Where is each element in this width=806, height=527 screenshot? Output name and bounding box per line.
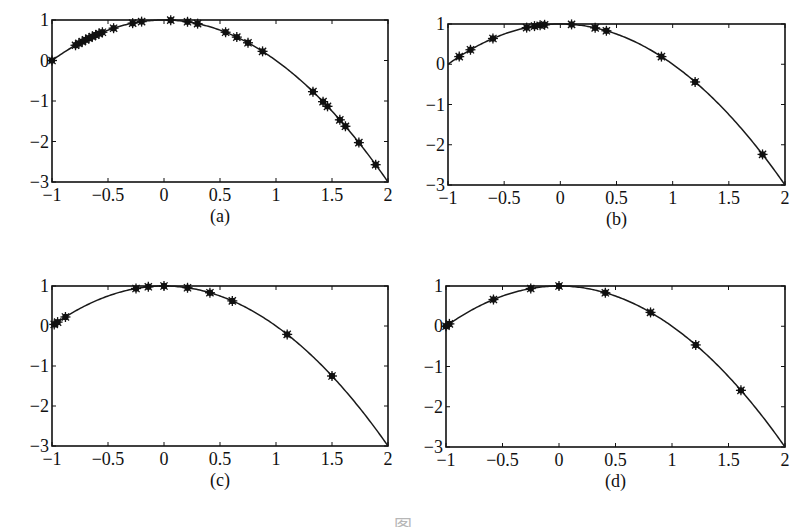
data-point-marker xyxy=(323,101,333,111)
y-tick-label: −3 xyxy=(30,436,49,456)
data-point-marker xyxy=(567,19,577,29)
x-tick-label: 2 xyxy=(781,450,790,470)
data-point-marker xyxy=(221,27,231,37)
x-tick-label: 1.5 xyxy=(321,185,344,205)
x-tick-label: 1.5 xyxy=(321,449,344,469)
data-point-marker xyxy=(60,312,70,322)
figure-canvas: −1−0.500.511.5210−1−2−3(a)−1−0.500.511.5… xyxy=(0,0,806,527)
data-point-marker xyxy=(340,121,350,131)
y-tick-label: −1 xyxy=(30,91,49,111)
data-point-marker xyxy=(690,77,700,87)
y-tick-label: −2 xyxy=(30,132,49,152)
data-point-marker xyxy=(646,307,656,317)
x-tick-label: 2 xyxy=(384,185,393,205)
data-point-marker xyxy=(109,23,119,33)
data-point-marker xyxy=(522,23,532,33)
panel-label: (c) xyxy=(210,470,230,491)
data-point-marker xyxy=(327,371,337,381)
y-tick-label: −2 xyxy=(424,397,443,417)
data-point-marker xyxy=(656,52,666,62)
data-point-marker xyxy=(166,15,176,25)
data-point-marker xyxy=(454,52,464,62)
data-point-marker xyxy=(227,296,237,306)
data-point-marker xyxy=(137,17,147,27)
y-tick-label: −3 xyxy=(424,437,443,457)
y-tick-label: 1 xyxy=(434,276,443,296)
data-point-marker xyxy=(47,56,57,66)
x-tick-label: 0 xyxy=(556,188,565,208)
data-point-marker xyxy=(97,27,107,37)
data-point-marker xyxy=(554,281,564,291)
x-tick-label: −0.5 xyxy=(486,450,519,470)
y-tick-label: 1 xyxy=(40,276,49,296)
x-tick-label: 1 xyxy=(272,449,281,469)
x-tick-label: 1 xyxy=(668,188,677,208)
data-point-marker xyxy=(128,18,138,28)
y-tick-label: −1 xyxy=(424,357,443,377)
data-point-marker xyxy=(590,23,600,33)
subplot-d: −1−0.500.511.5210−1−2−3(d) xyxy=(424,276,790,492)
data-point-marker xyxy=(371,160,381,170)
data-point-marker xyxy=(232,32,242,42)
x-tick-label: 0 xyxy=(555,450,564,470)
panel-label: (b) xyxy=(606,209,627,230)
data-point-marker xyxy=(526,284,536,294)
y-tick-label: −1 xyxy=(30,356,49,376)
x-tick-label: 1.5 xyxy=(717,450,740,470)
data-point-marker xyxy=(465,45,475,55)
subplot-a: −1−0.500.511.5210−1−2−3(a) xyxy=(30,10,393,227)
x-tick-label: 2 xyxy=(384,449,393,469)
y-tick-label: 0 xyxy=(436,54,445,74)
curve-line xyxy=(448,24,785,185)
y-tick-label: −3 xyxy=(30,172,49,192)
data-point-marker xyxy=(193,19,203,29)
panel-label: (d) xyxy=(605,471,626,492)
x-tick-label: 1.5 xyxy=(718,188,741,208)
data-point-marker xyxy=(691,340,701,350)
panel-label: (a) xyxy=(210,206,230,227)
data-point-marker xyxy=(282,329,292,339)
x-tick-label: 1 xyxy=(272,185,281,205)
data-point-marker xyxy=(205,288,215,298)
x-tick-label: −0.5 xyxy=(488,188,521,208)
data-point-marker xyxy=(308,87,318,97)
subplot-b: −1−0.500.511.5210−1−2−3(b) xyxy=(426,14,790,230)
data-point-marker xyxy=(488,33,498,43)
y-tick-label: 1 xyxy=(436,14,445,34)
subplot-c: −1−0.500.511.5210−1−2−3(c) xyxy=(30,276,393,491)
data-point-marker xyxy=(758,149,768,159)
x-tick-label: 2 xyxy=(781,188,790,208)
data-point-marker xyxy=(143,282,153,292)
data-point-marker xyxy=(243,38,253,48)
data-point-marker xyxy=(540,20,550,30)
data-point-marker xyxy=(444,319,454,329)
x-tick-label: 0.5 xyxy=(209,449,232,469)
axes-frame xyxy=(52,286,388,446)
curve-line xyxy=(446,286,785,447)
axes-frame xyxy=(448,24,785,185)
axes-frame xyxy=(52,20,388,182)
curve-line xyxy=(52,20,388,182)
y-tick-label: −3 xyxy=(426,175,445,195)
figure-caption: 图 xyxy=(0,512,806,527)
data-point-marker xyxy=(601,26,611,36)
data-point-marker xyxy=(354,138,364,148)
y-tick-label: −2 xyxy=(30,396,49,416)
data-point-marker xyxy=(258,46,268,56)
y-tick-label: 1 xyxy=(40,10,49,30)
x-tick-label: 0 xyxy=(160,185,169,205)
data-point-marker xyxy=(183,17,193,27)
x-tick-label: 0.5 xyxy=(604,450,627,470)
x-tick-label: 0.5 xyxy=(605,188,628,208)
data-point-marker xyxy=(159,281,169,291)
data-point-marker xyxy=(488,295,498,305)
data-point-marker xyxy=(183,283,193,293)
y-tick-label: −2 xyxy=(426,135,445,155)
x-tick-label: −0.5 xyxy=(92,449,125,469)
x-tick-label: 1 xyxy=(668,450,677,470)
y-tick-label: −1 xyxy=(426,95,445,115)
x-tick-label: 0 xyxy=(160,449,169,469)
x-tick-label: −0.5 xyxy=(92,185,125,205)
y-tick-label: 0 xyxy=(40,316,49,336)
data-point-marker xyxy=(600,288,610,298)
